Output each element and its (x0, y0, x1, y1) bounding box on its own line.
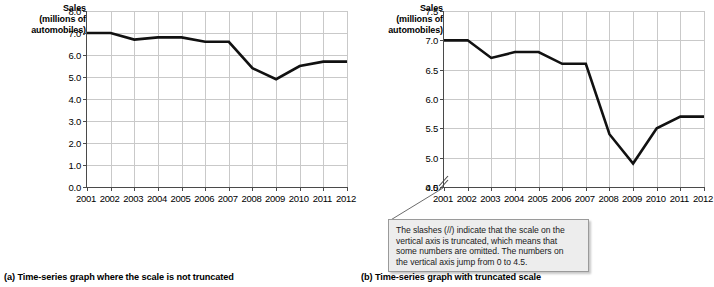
y-axis-tick (440, 128, 444, 129)
x-axis-tick-label: 2001 (76, 193, 96, 204)
time-series-comparison-figure: Sales (millions of automobiles) (a) Time… (0, 0, 714, 287)
x-axis-tick-label: 2009 (622, 193, 642, 204)
x-axis-tick (657, 187, 658, 191)
x-axis-tick-label: 2007 (575, 193, 595, 204)
series-path-sales (87, 33, 347, 79)
y-axis-tick-label: 5.5 (425, 123, 438, 134)
x-axis-tick-label: 2004 (504, 193, 524, 204)
callout-line-4: the vertical axis jump from 0 to 4.5. (396, 257, 582, 268)
x-axis-tick-label: 2011 (670, 193, 689, 204)
y-axis-tick-label: 4.0 (68, 94, 81, 105)
y-gridline (87, 165, 347, 166)
x-gridline (229, 11, 230, 187)
panel-a-untruncated: Sales (millions of automobiles) (a) Time… (0, 0, 357, 287)
x-axis-tick-label: 2003 (123, 193, 143, 204)
y-axis-zero-label: 0.0 (425, 182, 438, 193)
y-axis-tick-label: 7.0 (425, 35, 438, 46)
y-gridline (87, 143, 347, 144)
x-axis-tick (515, 187, 516, 191)
x-axis-tick (539, 187, 540, 191)
x-gridline (468, 11, 469, 187)
x-gridline (300, 11, 301, 187)
x-axis-tick-label: 2007 (218, 193, 238, 204)
x-gridline (347, 11, 348, 187)
x-axis-tick-label: 2012 (336, 193, 356, 204)
x-gridline (586, 11, 587, 187)
x-gridline (134, 11, 135, 187)
x-gridline (158, 11, 159, 187)
series-path-sales (444, 40, 704, 163)
y-gridline (87, 55, 347, 56)
x-axis-tick-label: 2002 (100, 193, 120, 204)
x-axis-tick (182, 187, 183, 191)
x-axis-tick (87, 187, 88, 191)
x-gridline (182, 11, 183, 187)
truncation-annotation-callout: The slashes (//) indicate that the scale… (388, 219, 589, 272)
y-axis-tick (83, 11, 87, 12)
x-axis-tick (252, 187, 253, 191)
x-gridline (205, 11, 206, 187)
y-gridline (87, 77, 347, 78)
x-axis-tick-label: 2006 (551, 193, 571, 204)
x-axis-tick (704, 187, 705, 191)
x-gridline (657, 11, 658, 187)
x-gridline (539, 11, 540, 187)
axis-truncation-slashes (437, 172, 453, 194)
x-axis-tick-label: 2010 (289, 193, 309, 204)
y-gridline (444, 128, 704, 129)
y-axis-tick-label: 6.5 (425, 64, 438, 75)
x-axis-tick-label: 2006 (194, 193, 214, 204)
x-axis-tick-label: 2004 (147, 193, 167, 204)
y-axis-tick (83, 55, 87, 56)
y-gridline (444, 11, 704, 12)
y-axis-tick (83, 143, 87, 144)
x-gridline (562, 11, 563, 187)
x-axis-tick-label: 2012 (693, 193, 713, 204)
y-axis-tick-label: 1.0 (68, 160, 81, 171)
callout-line-2: vertical axis is truncated, which means … (396, 236, 582, 247)
x-axis-tick-label: 2010 (646, 193, 666, 204)
y-axis-tick-label: 0.0 (68, 182, 81, 193)
y-gridline (444, 70, 704, 71)
x-axis-tick (134, 187, 135, 191)
x-axis-tick (276, 187, 277, 191)
y-axis-tick (440, 40, 444, 41)
x-axis-tick (158, 187, 159, 191)
y-gridline (444, 158, 704, 159)
y-axis-tick (440, 11, 444, 12)
y-axis-tick-label: 8.0 (68, 6, 81, 17)
x-axis-tick-label: 2011 (313, 193, 332, 204)
x-axis-tick (347, 187, 348, 191)
y-gridline (87, 33, 347, 34)
x-axis-tick-label: 2005 (171, 193, 191, 204)
y-axis-tick-label: 7.5 (425, 6, 438, 17)
x-axis-tick (205, 187, 206, 191)
y-axis-tick (83, 121, 87, 122)
x-axis-tick-label: 2005 (528, 193, 548, 204)
y-axis-tick-label: 2.0 (68, 138, 81, 149)
x-gridline (515, 11, 516, 187)
panel-b-caption: (b) Time-series graph with truncated sca… (361, 272, 541, 282)
y-axis-tick (83, 77, 87, 78)
y-gridline (87, 121, 347, 122)
callout-line-1: The slashes (//) indicate that the scale… (396, 225, 582, 236)
x-gridline (111, 11, 112, 187)
y-gridline (444, 99, 704, 100)
x-gridline (491, 11, 492, 187)
x-axis-tick-label: 2001 (433, 193, 453, 204)
y-axis-tick-label: 7.0 (68, 28, 81, 39)
x-axis-tick (229, 187, 230, 191)
x-gridline (680, 11, 681, 187)
x-axis-tick (609, 187, 610, 191)
x-gridline (609, 11, 610, 187)
x-axis-tick (323, 187, 324, 191)
y-axis-tick-label: 5.0 (425, 152, 438, 163)
x-axis-tick-label: 2008 (241, 193, 261, 204)
y-gridline (444, 40, 704, 41)
x-axis-tick (680, 187, 681, 191)
y-axis-tick-label: 6.0 (68, 50, 81, 61)
x-axis-tick-label: 2009 (265, 193, 285, 204)
x-gridline (704, 11, 705, 187)
x-axis-tick-label: 2008 (598, 193, 618, 204)
y-axis-tick-label: 6.0 (425, 94, 438, 105)
